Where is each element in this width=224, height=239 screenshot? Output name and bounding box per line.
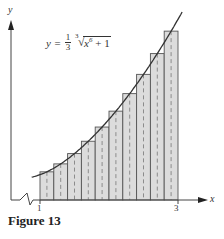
radicand-tail: + 1 bbox=[92, 37, 109, 49]
figure-caption: Figure 13 bbox=[8, 213, 61, 229]
y-axis-label: y bbox=[8, 4, 12, 15]
x-axis-arrow-icon bbox=[198, 197, 208, 203]
function-formula: y = 1 3 3 √ x6 + 1 bbox=[46, 33, 111, 52]
radical-icon: √ bbox=[78, 35, 85, 50]
radicand: x6 + 1 bbox=[83, 36, 111, 49]
tick-label-3: 3 bbox=[174, 203, 179, 213]
riemann-sum-figure bbox=[0, 0, 224, 239]
coef-denominator: 3 bbox=[66, 43, 71, 52]
y-axis-arrow-icon bbox=[8, 20, 14, 30]
formula-coefficient: 1 3 bbox=[65, 33, 71, 52]
cube-root: 3 √ x6 + 1 bbox=[75, 36, 111, 49]
formula-lhs: y = bbox=[46, 37, 61, 49]
tick-label-1: 1 bbox=[37, 203, 42, 213]
x-axis-label: x bbox=[210, 193, 214, 204]
coef-numerator: 1 bbox=[66, 33, 71, 42]
midpoint-rectangles bbox=[40, 31, 178, 200]
